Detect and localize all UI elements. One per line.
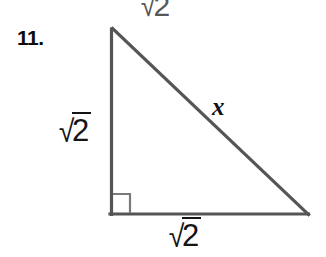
hypotenuse-length-label: x bbox=[212, 94, 225, 119]
right-triangle-figure bbox=[0, 0, 326, 257]
right-angle-marker-icon bbox=[113, 194, 130, 213]
leg-vertical-length-label: √2 bbox=[58, 113, 91, 147]
radicand-value: 2 bbox=[72, 112, 91, 146]
triangle-hypotenuse bbox=[113, 29, 309, 215]
worksheet-figure-page: √2 11. √2 √2 x bbox=[0, 0, 326, 257]
leg-horizontal-length-label: √2 bbox=[168, 218, 201, 252]
radicand-value: 2 bbox=[182, 217, 201, 251]
problem-number-label: 11. bbox=[17, 27, 44, 48]
